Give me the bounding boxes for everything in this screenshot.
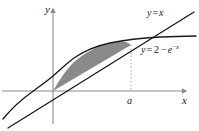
identity-line-label: y=x bbox=[147, 8, 164, 18]
exponential-curve-label: y=2−e−x bbox=[141, 45, 179, 55]
curve-minus-sign: − bbox=[160, 44, 168, 55]
curve-exponent: −x bbox=[172, 43, 179, 50]
graph-canvas bbox=[0, 0, 199, 131]
y-axis-label: y bbox=[45, 4, 50, 15]
identity-line-equals: = bbox=[151, 7, 159, 18]
curve-exponent-variable: x bbox=[176, 43, 179, 50]
identity-line bbox=[8, 12, 194, 128]
x-tick-label-a: a bbox=[127, 96, 132, 106]
identity-line-rhs: x bbox=[159, 7, 163, 18]
curve-equals: = bbox=[145, 44, 153, 55]
function-graph-figure: y x a y=x y=2−e−x bbox=[0, 0, 199, 131]
x-axis-label: x bbox=[182, 95, 187, 106]
